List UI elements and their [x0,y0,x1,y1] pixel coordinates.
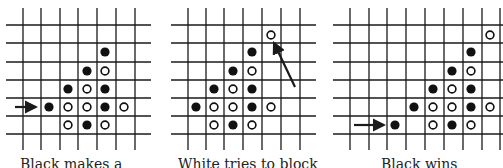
white-stone [83,103,91,111]
white-stone [429,103,437,111]
white-stone [210,103,218,111]
panel-1: Black makes a [0,0,165,168]
white-stone [429,121,437,129]
black-stone [228,120,237,129]
white-stone [229,85,237,93]
black-stone [100,47,109,56]
black-stone [247,47,256,56]
white-stone [210,121,218,129]
white-stone [267,31,275,39]
white-stone [486,103,494,111]
panel-2: White tries to block [165,0,333,168]
panel-3: Black wins [333,0,503,168]
black-stone [63,84,72,93]
white-stone [229,103,237,111]
white-stone [448,85,456,93]
white-stone [83,85,91,93]
white-stone [64,103,72,111]
gomoku-board-3 [333,0,503,168]
white-stone [120,103,128,111]
caption-panel-1: Black makes a [20,156,122,168]
black-stone [466,47,475,56]
black-stone [100,102,109,111]
caption-panel-3: Black wins [381,156,458,168]
black-stone [390,120,399,129]
white-stone [101,121,109,129]
white-stone [486,31,494,39]
gomoku-board-2 [165,0,333,168]
gomoku-board-1 [0,0,165,168]
black-stone [100,84,109,93]
black-stone [44,102,53,111]
black-stone [228,66,237,75]
white-stone [267,103,275,111]
black-stone [247,102,256,111]
black-stone [82,66,91,75]
white-stone [64,121,72,129]
white-stone [467,67,475,75]
caption-panel-2: White tries to block [178,156,318,168]
white-stone [101,67,109,75]
black-stone [447,66,456,75]
black-stone [428,84,437,93]
black-stone [466,102,475,111]
black-stone [466,84,475,93]
black-stone [209,84,218,93]
black-stone [247,84,256,93]
black-stone [82,120,91,129]
black-stone [191,102,200,111]
white-stone [467,121,475,129]
white-stone [248,67,256,75]
white-stone [248,121,256,129]
black-stone [409,102,418,111]
black-stone [447,120,456,129]
white-stone [448,103,456,111]
